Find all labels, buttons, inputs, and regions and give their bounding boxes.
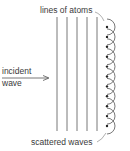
bottom-leader-line [97,133,106,142]
atom-dot [106,115,108,117]
atom-dot [106,46,108,48]
atom-dot [106,26,108,28]
diffraction-diagram: lines of atoms incident wave scattered w… [0,0,130,151]
atoms [106,26,108,127]
scattered-waves-label: scattered waves [31,137,92,147]
atom-dot [106,65,108,67]
atom-dot [106,36,108,38]
atom-dot [106,75,108,77]
top-leader-line [95,12,104,21]
atom-dot [106,105,108,107]
lines-of-atoms-label: lines of atoms [40,5,92,15]
atom-dot [106,95,108,97]
atom-dot [106,85,108,87]
atom-lines [57,17,97,131]
wave-label: wave [1,78,22,88]
incident-label: incident [2,66,32,76]
atom-dot [106,56,108,58]
atom-dot [106,125,108,127]
